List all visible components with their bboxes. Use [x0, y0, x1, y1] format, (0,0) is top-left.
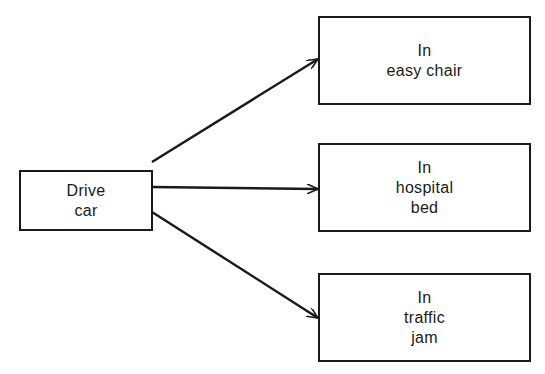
hospital-bed-box: In hospital bed [318, 143, 531, 232]
traffic-jam-line-1: In [418, 288, 432, 308]
traffic-jam-line-2: traffic [404, 308, 445, 328]
arrow-to-easy-chair [152, 59, 318, 162]
easy-chair-line-2: easy chair [387, 61, 463, 81]
hospital-bed-line-3: bed [411, 198, 439, 218]
arrow-to-hospital-bed [152, 187, 318, 189]
traffic-jam-line-3: jam [411, 328, 438, 348]
arrow-to-traffic-jam [152, 212, 318, 318]
drive-car-box: Drive car [19, 170, 153, 231]
easy-chair-line-1: In [418, 41, 432, 61]
hospital-bed-line-1: In [418, 158, 432, 178]
traffic-jam-box: In traffic jam [318, 273, 531, 362]
easy-chair-box: In easy chair [318, 16, 531, 105]
hospital-bed-line-2: hospital [396, 178, 454, 198]
drive-car-line-1: Drive [67, 181, 106, 201]
drive-car-line-2: car [74, 201, 97, 221]
